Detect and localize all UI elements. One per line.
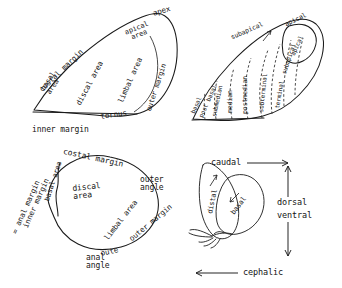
distal-pointer <box>210 175 217 186</box>
hindwing-label-outer-angle: outer angle <box>140 176 164 192</box>
moth-leg-3 <box>211 239 220 248</box>
moth-leg-1 <box>199 238 213 242</box>
orientation-label-cephalic: cephalic <box>243 268 283 277</box>
wing-topography-figure: apex apical area costal margin basal are… <box>0 0 342 288</box>
orientation-label-ventral: ventral <box>277 211 312 220</box>
band-label-postmedian: postmedian <box>242 76 249 114</box>
orientation-label-caudal: caudal <box>211 158 241 167</box>
moth-antenna-2 <box>189 233 212 237</box>
forewing-label-inner-margin: inner margin <box>32 126 89 134</box>
hindwing-label-discal-area: discal area <box>72 182 102 201</box>
orientation-label-dorsal: dorsal <box>277 198 307 207</box>
band-label-median: median <box>227 90 234 113</box>
hindwing-label-anal-angle: anal angle <box>86 254 110 270</box>
